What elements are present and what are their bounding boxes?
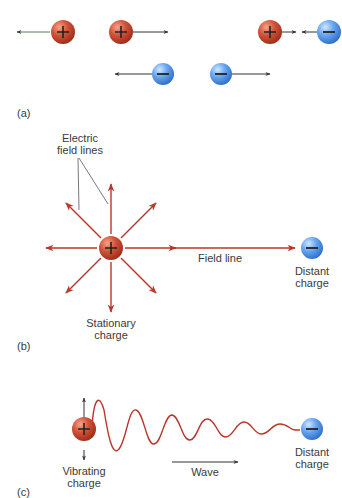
negative-charge — [152, 63, 174, 85]
field-line-down-right — [121, 258, 156, 293]
label-line: Distant — [290, 265, 334, 277]
label-line: charge — [58, 477, 110, 489]
vibrating-positive-charge — [72, 417, 96, 441]
distant-negative-charge — [301, 418, 323, 440]
label-line: Vibrating — [58, 465, 110, 477]
panel-label-c: (c) — [17, 486, 30, 498]
field-line-down-left — [66, 258, 101, 293]
panel-c — [72, 398, 323, 462]
label-line: charge — [83, 329, 139, 341]
panel-a — [17, 20, 341, 85]
vibrating-charge-label: Vibrating charge — [58, 465, 110, 489]
electric-field-lines-label: Electric field lines — [55, 132, 105, 156]
stationary-positive-charge — [99, 236, 123, 260]
positive-charge — [109, 20, 133, 44]
label-line: Distant — [290, 446, 334, 458]
panel-label-a: (a) — [17, 107, 30, 119]
label-pointer — [79, 158, 108, 204]
electromagnetic-wave — [92, 400, 300, 450]
distant-negative-charge — [301, 237, 323, 259]
field-line-label: Field line — [190, 252, 250, 264]
field-line-up-left — [66, 203, 101, 238]
stationary-charge-label: Stationary charge — [83, 317, 139, 341]
label-line: charge — [290, 277, 334, 289]
distant-charge-label: Distant charge — [290, 265, 334, 289]
distant-charge-label: Distant charge — [290, 446, 334, 470]
field-line-up-right — [121, 203, 156, 238]
panel-b — [46, 158, 323, 312]
label-line: charge — [290, 458, 334, 470]
panel-label-b: (b) — [17, 340, 30, 352]
label-pointer — [78, 158, 79, 210]
label-line: Electric — [55, 132, 105, 144]
positive-charge — [258, 20, 282, 44]
label-line: Stationary — [83, 317, 139, 329]
label-line: field lines — [55, 144, 105, 156]
negative-charge — [210, 63, 232, 85]
negative-charge — [317, 20, 341, 44]
positive-charge — [51, 20, 75, 44]
wave-label: Wave — [185, 466, 225, 478]
